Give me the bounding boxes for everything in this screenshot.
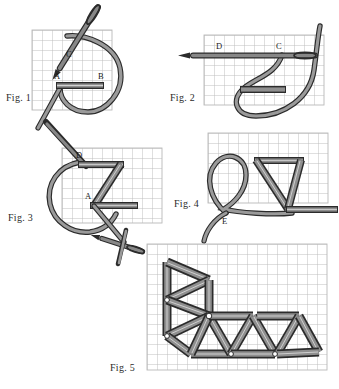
point-label-a: A (54, 71, 61, 81)
point-label-c: C (66, 49, 72, 59)
diagonal-stitch-right (288, 160, 301, 209)
thread-loop-highlight (60, 36, 121, 112)
point-label-e: E (222, 216, 227, 226)
needle (178, 52, 318, 58)
laid-stitch-bottom (286, 206, 338, 213)
thread-loop (210, 156, 292, 213)
thread-loop-highlight (236, 26, 320, 116)
point-label-a: A (85, 191, 92, 201)
point-label-d: D (76, 150, 82, 160)
thread-loop (236, 26, 320, 116)
point-label-c: C (276, 41, 282, 51)
diagonal-stitch-left (256, 160, 288, 209)
figure-1-thread-layer: C A B (10, 0, 150, 130)
illustration-stage: C A B Fig. 1 (0, 0, 339, 389)
laid-stitch (240, 86, 286, 93)
figure-2-label: Fig. 2 (170, 92, 195, 103)
laid-stitch-ab (56, 82, 104, 89)
figure-4-thread-layer: E (188, 125, 339, 235)
figure-3-label: Fig. 3 (8, 212, 33, 223)
figure-5-label: Fig. 5 (110, 362, 135, 373)
diagonal-stitch (94, 164, 121, 206)
figure-1-label: Fig. 1 (6, 92, 31, 103)
figure-3-thread-layer: D A (28, 118, 178, 243)
figure-2-thread-layer: D C (172, 18, 339, 128)
figure-5-stitch-layer (147, 244, 337, 380)
figure-3-needle-tail (96, 228, 152, 268)
figure-4-label: Fig. 4 (174, 198, 199, 209)
point-label-b: B (98, 71, 104, 81)
point-label-d: D (216, 41, 222, 51)
